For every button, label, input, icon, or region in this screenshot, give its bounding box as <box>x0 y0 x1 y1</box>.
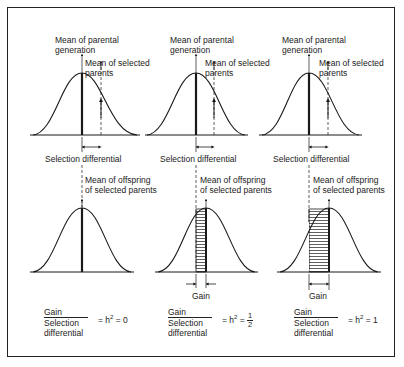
panel-2-offspring-mean-label: Mean of offspringof selected parents <box>200 175 272 195</box>
panel-1-parental-mean-label: Mean of parentalgeneration <box>55 35 119 55</box>
panel-3-selected-mean-label: Mean of selectedparents <box>319 58 384 78</box>
panel-2-parental-mean-label: Mean of parentalgeneration <box>170 35 234 55</box>
panel-3-selection-differential-label: Selection differential <box>273 154 349 164</box>
panel-3-offspring-distribution <box>277 200 381 290</box>
panel-1-offspring-mean-label: Mean of offspringof selected parents <box>85 175 157 195</box>
panel-3-offspring-mean-label: Mean of offspringof selected parents <box>313 175 385 195</box>
panel-2-heritability-formula: Gain Selection differential = h2 = 12 <box>168 307 212 338</box>
panel-2-selected-mean-label: Mean of selectedparents <box>205 58 270 78</box>
panel-2-selection-differential-label: Selection differential <box>160 154 236 164</box>
one-half-fraction: 12 <box>247 312 253 329</box>
panel-1-heritability-formula: Gain Selection differential = h2 = 0 <box>44 307 88 338</box>
panel-3-parental-mean-label: Mean of parentalgeneration <box>282 35 346 55</box>
panel-1-selected-mean-label: Mean of selectedparents <box>85 58 150 78</box>
panel-1-offspring-distribution <box>30 200 134 272</box>
panel-3-heritability-formula: Gain Selection differential = h2 = 1 <box>294 307 338 338</box>
panel-3-gain-label: Gain <box>309 291 327 301</box>
panel-1-selection-differential-label: Selection differential <box>45 154 121 164</box>
panel-2-gain-label: Gain <box>192 291 210 301</box>
panel-2-offspring-distribution <box>155 200 258 288</box>
